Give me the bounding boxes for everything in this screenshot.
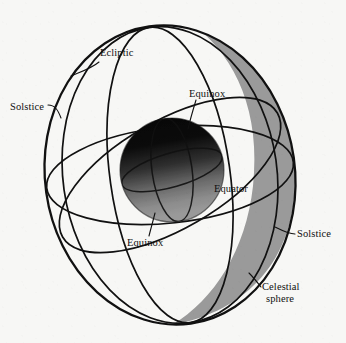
label-celestial-sphere-line2: sphere bbox=[266, 293, 294, 305]
label-celestial-sphere-line1: Celestial bbox=[262, 281, 300, 293]
celestial-sphere-figure: Ecliptic Solstice Equinox Equator Equino… bbox=[0, 0, 346, 343]
label-equinox-upper: Equinox bbox=[189, 88, 225, 100]
label-solstice-left: Solstice bbox=[10, 101, 44, 113]
label-equator: Equator bbox=[214, 183, 248, 195]
label-equinox-lower: Equinox bbox=[127, 237, 163, 249]
label-ecliptic: Ecliptic bbox=[100, 47, 133, 59]
label-solstice-right: Solstice bbox=[297, 228, 331, 240]
